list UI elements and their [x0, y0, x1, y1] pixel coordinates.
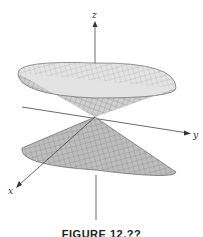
lower-cone	[22, 117, 176, 176]
z-arrow-icon	[93, 21, 98, 27]
z-axis-label: z	[91, 10, 97, 20]
double-cone-figure: z y x	[0, 0, 203, 237]
x-arrow-icon	[16, 181, 22, 188]
y-arrow-icon	[184, 131, 191, 136]
x-axis-label: x	[8, 186, 13, 196]
y-axis-label: y	[192, 130, 199, 140]
figure-caption: FIGURE 12.??	[0, 228, 203, 237]
upper-cone	[18, 62, 176, 117]
